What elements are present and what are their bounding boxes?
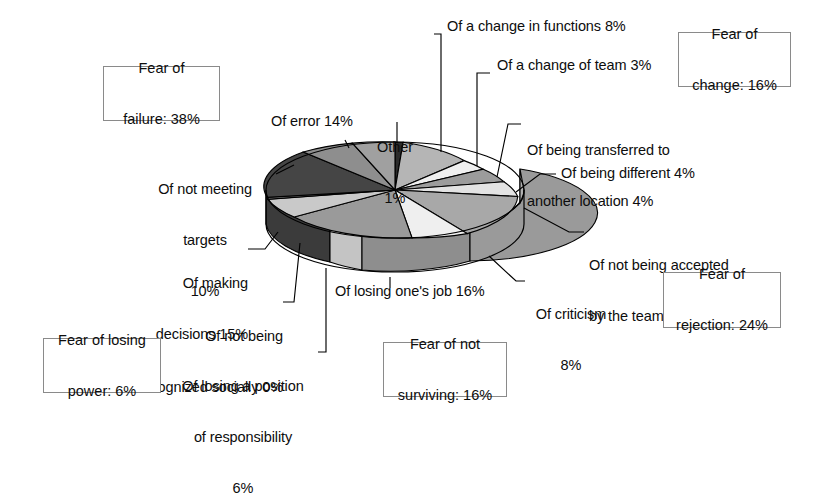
group-box-fear-of-change: Fear of change: 16% xyxy=(678,32,791,87)
label-line-2: 1% xyxy=(363,190,427,207)
group-box-fear-of-not-surviving: Fear of not surviving: 16% xyxy=(383,342,507,397)
box-line-2: change: 16% xyxy=(692,77,777,94)
label-of-losing-ones-job: Of losing one's job 16% xyxy=(335,283,485,300)
group-box-fear-of-losing-power: Fear of losing power: 6% xyxy=(43,338,161,393)
box-line-2: power: 6% xyxy=(58,383,146,400)
box-line-2: failure: 38% xyxy=(123,111,200,128)
box-line-1: Fear of losing xyxy=(58,332,146,349)
label-line-1: Of making xyxy=(100,275,248,292)
label-of-losing-a-position: Of losing a position of responsibility 6… xyxy=(168,344,318,497)
label-line-2: 8% xyxy=(525,357,617,374)
group-box-fear-of-failure: Fear of failure: 38% xyxy=(103,66,220,121)
box-line-1: Fear of xyxy=(676,266,768,283)
label-line-1: Of losing a position xyxy=(168,378,318,395)
label-of-error: Of error 14% xyxy=(271,113,353,130)
label-of-criticism: Of criticism 8% xyxy=(525,272,617,408)
label-line-1: Other xyxy=(363,139,427,156)
box-line-1: Fear of not xyxy=(398,336,492,353)
label-other: Other 1% xyxy=(363,105,427,241)
label-of-a-change-in-functions: Of a change in functions 8% xyxy=(447,18,626,35)
box-line-1: Fear of xyxy=(123,60,200,77)
box-line-1: Fear of xyxy=(692,26,777,43)
label-line-2: of responsibility xyxy=(168,429,318,446)
label-line-1: Of not meeting xyxy=(120,181,290,198)
label-of-being-different: Of being different 4% xyxy=(561,165,695,182)
label-line-1: Of being transferred to xyxy=(527,142,670,159)
label-of-a-change-of-team: Of a change of team 3% xyxy=(497,57,651,74)
box-line-2: surviving: 16% xyxy=(398,387,492,404)
label-line-1: Of criticism xyxy=(525,306,617,323)
label-line-3: 6% xyxy=(168,480,318,497)
group-box-fear-of-rejection: Fear of rejection: 24% xyxy=(663,272,781,328)
label-line-2: another location 4% xyxy=(527,193,670,210)
box-line-2: rejection: 24% xyxy=(676,317,768,334)
